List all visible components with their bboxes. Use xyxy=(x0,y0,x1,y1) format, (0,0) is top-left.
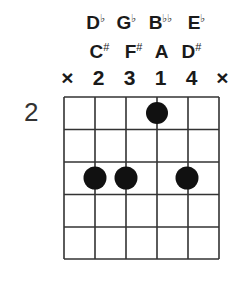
finger-dot-string-3-fret-3 xyxy=(115,167,138,190)
finger-dot-string-2-fret-3 xyxy=(84,167,107,190)
finger-dot-string-4-fret-1 xyxy=(146,102,168,124)
finger-dot-string-5-fret-3 xyxy=(176,167,199,190)
fretboard-grid xyxy=(0,0,246,283)
